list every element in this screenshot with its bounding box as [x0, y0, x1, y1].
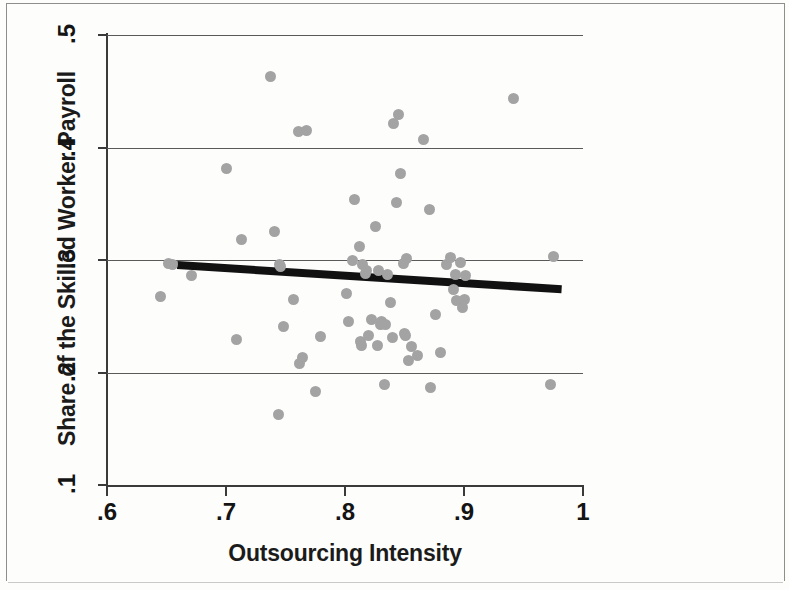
data-point [425, 382, 436, 393]
x-axis-tick-label: .9 [437, 498, 491, 526]
data-point [361, 265, 372, 276]
y-axis-tick [98, 372, 107, 374]
data-point [341, 288, 352, 299]
x-axis-tick-label: 1 [556, 498, 610, 526]
x-axis-tick [106, 487, 108, 496]
data-point [548, 251, 559, 262]
y-axis-tick-label: .3 [53, 232, 81, 286]
x-axis-tick [582, 487, 584, 496]
page-bottom-rule [8, 582, 783, 583]
y-axis-tick-label: .2 [53, 345, 81, 399]
data-point [167, 259, 178, 270]
data-point [508, 93, 519, 104]
data-point [265, 71, 276, 82]
data-point [310, 386, 321, 397]
data-point [455, 257, 466, 268]
data-point [424, 204, 435, 215]
data-point [380, 319, 391, 330]
data-point [349, 194, 360, 205]
data-point [448, 284, 459, 295]
data-point [400, 330, 411, 341]
data-point [430, 309, 441, 320]
x-axis-tick [463, 487, 465, 496]
x-axis-tick-label: .8 [318, 498, 372, 526]
x-axis-tick [225, 487, 227, 496]
y-axis-tick [98, 259, 107, 261]
plot-area [107, 35, 583, 485]
y-axis-tick [98, 484, 107, 486]
data-point [354, 241, 365, 252]
x-axis-tick-label: .6 [80, 498, 134, 526]
data-point [435, 347, 446, 358]
data-point [391, 197, 402, 208]
y-axis-tick [98, 147, 107, 149]
y-axis-tick-label: .4 [53, 120, 81, 174]
data-point [459, 294, 470, 305]
x-axis-tick-label: .7 [199, 498, 253, 526]
data-point [347, 255, 358, 266]
y-axis-tick-label: .1 [53, 457, 81, 511]
data-point [278, 321, 289, 332]
y-axis-tick-label: .5 [53, 7, 81, 61]
data-point [273, 409, 284, 420]
data-point [297, 352, 308, 363]
data-point [315, 331, 326, 342]
data-point [460, 270, 471, 281]
x-axis-tick [344, 487, 346, 496]
data-point [385, 297, 396, 308]
scatter-plot-figure: Share of the Skilled Worker Payroll Outs… [0, 0, 789, 590]
data-point [155, 291, 166, 302]
y-axis-tick [98, 34, 107, 36]
x-axis-title: Outsourcing Intensity [107, 540, 583, 567]
data-point [372, 340, 383, 351]
data-point [221, 163, 232, 174]
